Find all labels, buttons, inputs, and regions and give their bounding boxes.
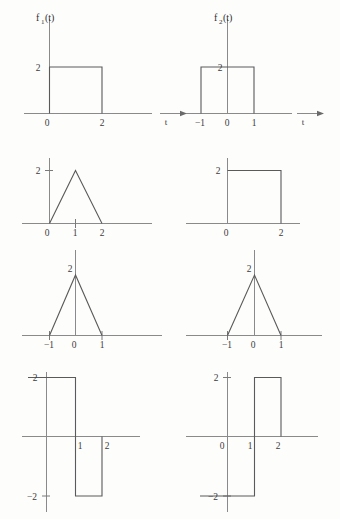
xtick-label-r1c1-0: 0 [45, 118, 50, 128]
x-axis-label-r1c2: t [302, 117, 305, 127]
xtick-label-r4c2-1: 1 [248, 441, 253, 451]
plot-r1c2: 2 −1 0 1 t f 2 (t) [186, 12, 324, 128]
plot-r2c1: 2 0 1 2 [22, 158, 152, 238]
ytick-label-r2c1-2: 2 [36, 166, 41, 176]
x-axis-label-r1c1: t [165, 117, 168, 127]
xtick-label-r1c1-2: 2 [100, 118, 105, 128]
xtick-label-r3c1-neg1: −1 [44, 340, 54, 350]
xtick-label-r3c2-1: 1 [279, 340, 284, 350]
plot-r3c1: 2 −1 0 1 [22, 250, 162, 350]
xtick-label-r4c1-1: 1 [78, 441, 83, 451]
xtick-label-r4c2-2: 2 [276, 441, 281, 451]
function-label-f1-name: f [36, 12, 40, 23]
ytick-label-r4c1-neg2: −2 [27, 492, 37, 502]
xtick-label-r2c1-1: 1 [73, 228, 78, 238]
function-label-f2-name: f [214, 12, 218, 23]
waveform-r1c1 [50, 67, 103, 114]
ytick-label-r3c1-2: 2 [68, 264, 73, 274]
ytick-label-r4c2-2: 2 [214, 373, 219, 383]
xtick-label-r3c1-0: 0 [72, 340, 77, 350]
xtick-label-r2c1-2: 2 [100, 228, 105, 238]
ytick-label-r4c2-neg2: −2 [208, 492, 218, 502]
t-axis-arrowhead-r1c2 [317, 111, 324, 116]
waveform-figure: 2 0 2 t f 1 (t) 2 −1 0 1 t f 2 (t) [0, 0, 340, 519]
xtick-label-r3c1-1: 1 [100, 340, 105, 350]
ytick-label-r3c2-2: 2 [247, 264, 252, 274]
ytick-label-r2c2-2: 2 [216, 166, 221, 176]
xtick-label-r2c1-0: 0 [45, 228, 50, 238]
plot-r4c1: 2 −2 1 2 [22, 372, 140, 512]
plot-r2c2: 2 0 2 [186, 158, 300, 238]
ytick-label-r1c1-2: 2 [36, 63, 41, 73]
xtick-label-r2c2-2: 2 [279, 228, 284, 238]
xtick-label-r4c2-0: 0 [220, 441, 225, 451]
xtick-label-r2c2-0: 0 [224, 228, 229, 238]
xtick-label-r1c2-neg1: −1 [195, 118, 205, 128]
xtick-label-r1c2-1: 1 [252, 118, 257, 128]
waveform-r2c1 [50, 171, 103, 224]
waveform-r2c2 [228, 171, 282, 224]
function-label-f1-arg: (t) [45, 12, 54, 24]
ytick-label-r4c1-2: 2 [33, 373, 38, 383]
xtick-label-r1c2-0: 0 [225, 118, 230, 128]
function-label-f2-arg: (t) [223, 12, 232, 24]
ytick-label-r1c2-2: 2 [218, 63, 223, 73]
xtick-label-r3c2-neg1: −1 [222, 340, 232, 350]
xtick-label-r4c1-2: 2 [105, 441, 110, 451]
xtick-label-r3c2-0: 0 [251, 340, 256, 350]
plot-r1c1: 2 0 2 t f 1 (t) [24, 12, 187, 128]
figure-sheet: 2 0 2 t f 1 (t) 2 −1 0 1 t f 2 (t) [0, 0, 340, 519]
plot-r3c2: 2 −1 0 1 [186, 250, 322, 350]
t-axis-arrowhead-r1c1 [180, 111, 187, 116]
plot-r4c2: 2 −2 0 1 2 [186, 372, 318, 512]
